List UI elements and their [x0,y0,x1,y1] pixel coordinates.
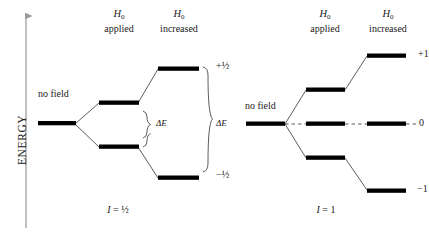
header-word-increased-left: increased [160,24,198,34]
header-symbol-applied-left: H0 [113,9,124,20]
header-symbol-increased-right: H0 [382,9,393,20]
level-label-minus-half: −½ [216,170,229,180]
level-label-minus-one: −1 [417,184,428,194]
level-upper-applied [99,101,139,105]
level-upper-increased [158,67,199,71]
panel-spin-half-connectors [75,69,158,178]
level-ground-no-field [38,121,76,125]
energy-axis-label: ENERGY [16,115,28,165]
level-lower-applied [99,145,139,149]
level-label-plus-half: +½ [216,61,229,71]
panel-spin-one-levels [246,54,406,193]
caption-spin-one: I = 1 [317,205,336,215]
no-field-label-left: no field [38,89,69,99]
level-ground-no-field [246,122,285,126]
header-word-applied-left: applied [104,24,133,34]
header-symbol-increased-left: H0 [173,9,184,20]
level-middle-increased [367,122,406,126]
level-lower-increased [367,189,406,193]
delta-e-label-increased: ΔE [216,119,227,128]
delta-e-label-applied: ΔE [156,119,167,128]
diagram-canvas [0,0,429,239]
energy-level-splitting-figure: ENERGY H0 applied H0 increased no field … [0,0,429,239]
panel-spin-half-levels [38,67,199,180]
level-lower-increased [158,176,199,180]
caption-spin-half: I = ½ [107,205,128,215]
header-word-applied-right: applied [310,24,339,34]
no-field-label-right: no field [245,101,276,111]
header-word-increased-right: increased [369,24,407,34]
level-upper-increased [367,54,406,58]
level-label-plus-one: +1 [418,49,429,59]
level-upper-applied [306,88,345,92]
level-label-zero: 0 [419,118,424,128]
header-symbol-applied-right: H0 [319,9,330,20]
brace-delta-e-increased [203,67,213,172]
level-middle-applied [306,122,345,126]
level-lower-applied [306,156,345,160]
